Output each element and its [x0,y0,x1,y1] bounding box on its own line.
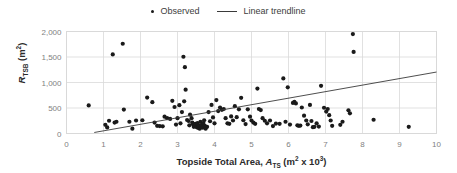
data-point [326,107,330,111]
data-point [172,105,176,109]
data-point [231,118,235,122]
y-tick-label: 500 [48,104,62,113]
gridlines [67,32,437,134]
data-point [180,110,184,114]
x-axis-prefix: Topside Total Area, [177,156,266,167]
data-point [243,122,247,126]
data-point [283,120,287,124]
x-axis-title: Topside Total Area, ATS (m2 x 103) [66,155,437,169]
data-point [205,125,209,129]
data-point [181,55,185,59]
x-tick-label: 3 [175,140,180,149]
x-tick-label: 6 [286,140,291,149]
data-point [212,121,216,125]
x-tick-label: 1 [101,140,106,149]
data-point [330,124,334,128]
data-point [259,108,263,112]
data-point [229,114,233,118]
data-point [202,118,206,122]
data-point [145,95,149,99]
x-tick-label: 4 [212,140,217,149]
data-point [253,122,257,126]
scatter-chart: Observed Linear trendline 05001,0001,500… [0,0,457,173]
data-point [309,119,313,123]
data-point [130,127,134,131]
data-point [319,84,323,88]
data-point [286,85,290,89]
data-point [239,96,243,100]
data-point [211,115,215,119]
data-point [294,101,298,105]
data-point [248,115,252,119]
data-point [372,118,376,122]
data-point [170,99,174,103]
y-tick-labels: 05001,0001,5002,000 [41,28,62,139]
data-point [161,124,165,128]
data-point [300,105,304,109]
data-point [329,118,333,122]
data-point [87,103,91,107]
y-axis-title: RTSB (m2) [15,23,29,103]
data-point [340,120,344,124]
data-point [134,118,138,122]
data-point [209,103,213,107]
data-point [150,100,154,104]
data-point [235,115,239,119]
data-point [111,52,115,56]
y-axis-units-post: ) [16,43,27,46]
data-point [184,88,188,92]
data-point [237,107,241,111]
y-tick-label: 2,000 [41,28,62,37]
data-point [407,125,411,129]
data-point [178,121,182,125]
y-tick-label: 1,000 [41,79,62,88]
data-point [241,118,245,122]
data-point [214,98,218,102]
data-point [298,123,302,127]
y-axis-symbol: R [16,77,27,84]
x-tick-label: 10 [432,140,441,149]
x-tick-labels: 012345678910 [64,140,441,149]
data-point [278,122,282,126]
x-tick-label: 2 [138,140,143,149]
data-point [227,122,231,126]
data-point [127,120,131,124]
data-point [182,99,186,103]
x-tick-label: 7 [323,140,328,149]
x-tick-label: 5 [249,140,254,149]
data-point [174,122,178,126]
y-axis-subscript: TSB [22,64,29,77]
data-point [224,116,228,120]
data-point [348,111,352,115]
data-point [308,103,312,107]
data-point [351,32,355,36]
data-point [281,76,285,80]
data-point [105,125,109,129]
data-point [322,106,326,110]
data-point [140,118,144,122]
data-point [255,87,259,91]
data-point [114,120,118,124]
data-point [306,122,310,126]
x-axis-subscript: TS [272,162,280,169]
data-point [208,119,212,123]
x-axis-units-post: ) [323,156,326,167]
data-point [317,125,321,129]
data-point [122,107,126,111]
x-tick-label: 9 [397,140,402,149]
x-tick-label: 0 [64,140,69,149]
data-point [288,122,292,126]
x-axis-units-mid: x 10 [299,156,320,167]
data-point [302,114,306,118]
data-point [352,50,356,54]
data-point [246,107,250,111]
plot-area: 05001,0001,5002,000 012345678910 [0,0,457,173]
y-tick-label: 1,500 [41,53,62,62]
x-tick-label: 8 [360,140,365,149]
y-axis-units-sup: 2 [15,46,22,50]
y-tick-label: 0 [57,130,62,139]
data-point [304,118,308,122]
data-point [274,121,278,125]
data-point [327,113,331,117]
data-point [189,116,193,120]
